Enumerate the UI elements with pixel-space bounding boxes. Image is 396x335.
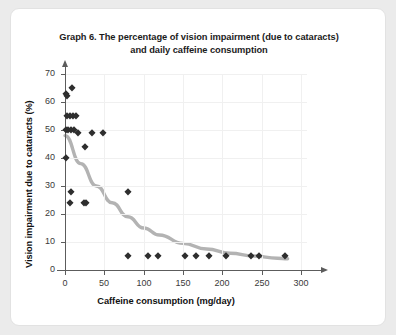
scatter-point (67, 188, 74, 195)
scatter-point (66, 199, 73, 206)
x-tick-mark (183, 271, 184, 275)
x-tick-label: 50 (84, 278, 124, 288)
x-tick-label: 200 (202, 278, 242, 288)
scatter-point (248, 252, 255, 259)
x-tick-mark (104, 271, 105, 275)
x-tick-label: 0 (45, 278, 85, 288)
gridline-vertical (222, 74, 223, 270)
x-tick-mark (222, 271, 223, 275)
trend-curve (65, 136, 288, 259)
x-tick-mark (262, 271, 263, 275)
x-tick-mark (301, 271, 302, 275)
scatter-point (68, 84, 75, 91)
x-tick-label: 150 (163, 278, 203, 288)
scatter-point (144, 252, 151, 259)
y-tick-mark (61, 214, 65, 215)
y-axis-title: Vision impairment due to cataracts (%) (24, 100, 34, 268)
gridline-vertical (144, 74, 145, 270)
gridline-vertical (301, 74, 302, 270)
y-tick-mark (61, 102, 65, 103)
scatter-point (181, 252, 188, 259)
scatter-point (81, 143, 88, 150)
gridline-vertical (183, 74, 184, 270)
x-tick-label: 300 (281, 278, 321, 288)
gridline-vertical (104, 74, 105, 270)
y-tick-mark (61, 74, 65, 75)
gridline-horizontal (65, 242, 307, 243)
gridline-horizontal (65, 158, 307, 159)
scatter-point (62, 154, 69, 161)
x-axis-line (57, 270, 321, 271)
x-axis-title: Caffeine consumption (mg/day) (11, 296, 321, 306)
y-axis-arrow-icon (62, 60, 68, 67)
scatter-point (154, 252, 161, 259)
gridline-horizontal (65, 186, 307, 187)
scatter-point (124, 188, 131, 195)
gridline-horizontal (65, 74, 307, 75)
plot-area: 010203040506070050100150200250300 (11, 9, 386, 326)
x-tick-mark (144, 271, 145, 275)
gridline-horizontal (65, 102, 307, 103)
scatter-point (193, 252, 200, 259)
y-tick-label: 70 (27, 68, 55, 78)
scatter-point (124, 252, 131, 259)
y-tick-mark (61, 242, 65, 243)
x-tick-label: 250 (242, 278, 282, 288)
gridline-vertical (262, 74, 263, 270)
gridline-horizontal (65, 214, 307, 215)
scatter-point (282, 252, 289, 259)
x-tick-label: 100 (124, 278, 164, 288)
scatter-point (223, 252, 230, 259)
chart-card: Graph 6. The percentage of vision impair… (10, 8, 386, 326)
y-tick-mark (61, 186, 65, 187)
x-tick-mark (65, 271, 66, 275)
scatter-point (205, 252, 212, 259)
scatter-point (63, 93, 70, 100)
x-axis-arrow-icon (321, 267, 328, 273)
